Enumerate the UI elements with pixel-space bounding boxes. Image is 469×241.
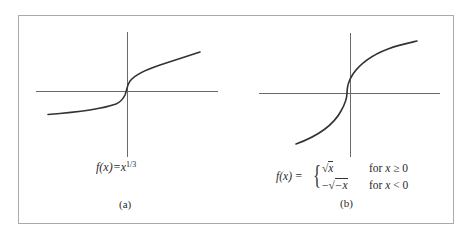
panel-b-case-1-condition: for x ≥ 0 — [369, 162, 408, 174]
panel-b-case-1: √x for x ≥ 0 — [322, 162, 408, 174]
neg-sqrt-symbol: −√ — [322, 179, 335, 191]
panel-b-case-2-radicand: −x — [335, 178, 348, 191]
condition-relation: ≥ 0 — [390, 162, 408, 174]
panel-b-case-2-expr: −√−x — [322, 179, 366, 191]
panel-a-curve — [48, 52, 200, 115]
panel-a-formula-exponent: 1/3 — [126, 160, 136, 169]
panel-b-case-2: −√−x for x < 0 — [322, 179, 408, 191]
condition-prefix: for — [369, 179, 385, 191]
panel-b-case-2-condition: for x < 0 — [369, 179, 408, 191]
plots-canvas — [0, 0, 469, 241]
panel-a-function-label: f(x)=x1/3 — [96, 160, 136, 175]
condition-relation: < 0 — [390, 179, 408, 191]
panel-b-formula-lhs: f(x) = — [276, 170, 303, 182]
panel-a-caption: (a) — [119, 198, 131, 210]
panel-b-case-1-expr: √x — [322, 162, 366, 174]
panel-a-axes — [36, 32, 218, 157]
panel-a-formula-lhs: f(x)=x — [96, 160, 126, 174]
panel-b-curve — [296, 41, 417, 144]
panel-b-axes — [259, 33, 440, 157]
condition-prefix: for — [369, 162, 385, 174]
piecewise-brace-icon: { — [313, 160, 321, 190]
panel-b-case-1-radicand: x — [328, 161, 333, 174]
panel-b-caption: (b) — [340, 197, 353, 209]
